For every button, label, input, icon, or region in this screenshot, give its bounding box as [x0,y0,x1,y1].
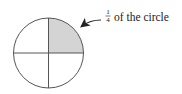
fraction-numerator: 1 [106,8,110,16]
pointer-arrow [82,20,101,26]
fraction-circle-diagram: 1 4 of the circle [0,0,182,94]
fraction-denominator: 4 [106,16,110,24]
label-text: of the circle [114,11,169,23]
